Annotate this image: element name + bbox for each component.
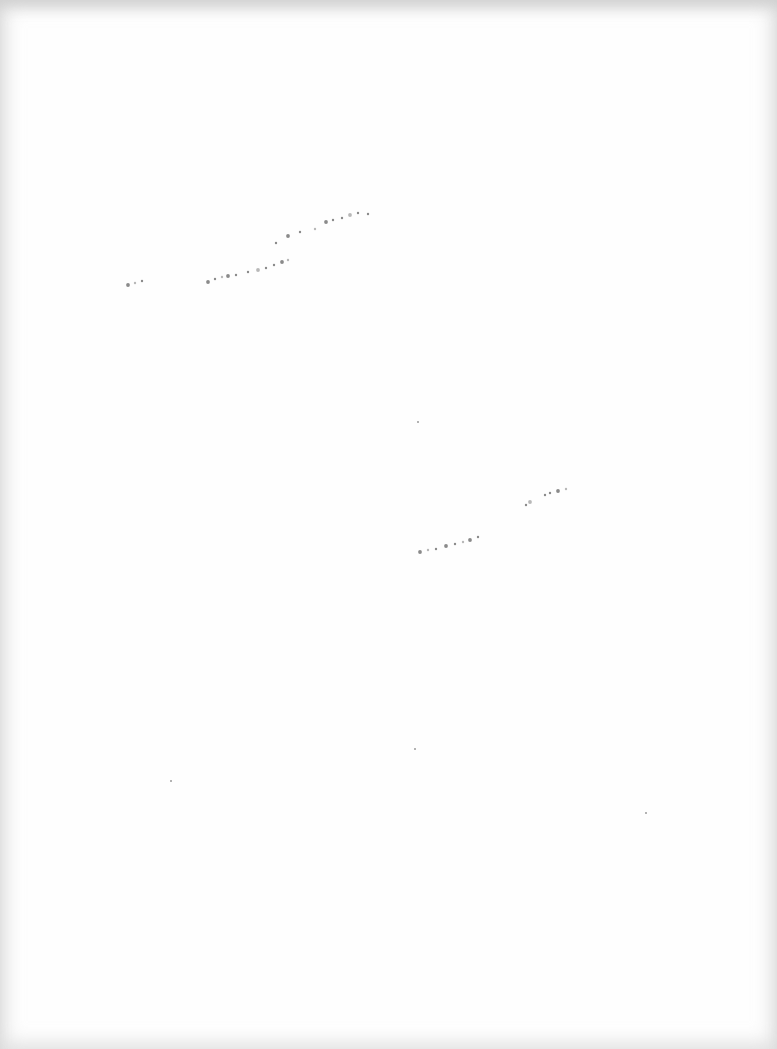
trace-dot — [280, 260, 284, 264]
trace-dot — [341, 217, 343, 219]
trace-dot — [141, 280, 143, 282]
trace-dot — [454, 543, 456, 545]
trace-dot — [435, 548, 437, 550]
trace-dot — [235, 274, 237, 276]
trace-dot — [332, 219, 334, 221]
trace-dot — [134, 282, 136, 284]
trace-dot — [348, 213, 352, 217]
dotted-trace-layer — [0, 0, 777, 1049]
trace-dot — [299, 231, 301, 233]
trace-dot — [221, 276, 223, 278]
trace-dot — [287, 259, 289, 261]
trace-dot — [214, 278, 216, 280]
speck — [417, 421, 419, 423]
trace-dot — [468, 538, 472, 542]
trace-dot — [528, 500, 532, 504]
trace-dot — [525, 504, 527, 506]
dotted-trace-upper — [126, 212, 369, 287]
trace-dot — [565, 488, 567, 490]
speck — [414, 748, 416, 750]
trace-dot — [273, 264, 275, 266]
scanned-page — [0, 0, 777, 1049]
trace-dot — [477, 536, 479, 538]
trace-dot — [544, 494, 546, 496]
trace-dot — [247, 271, 249, 273]
dotted-trace-middle — [418, 488, 567, 554]
trace-dot — [418, 550, 422, 554]
trace-dot — [462, 541, 464, 543]
trace-dot — [444, 544, 448, 548]
trace-dot — [206, 280, 210, 284]
trace-dot — [256, 268, 260, 272]
trace-dot — [549, 492, 551, 494]
trace-dot — [556, 489, 560, 493]
trace-dot — [126, 283, 130, 287]
trace-dot — [275, 242, 277, 244]
trace-dot — [265, 267, 267, 269]
trace-dot — [226, 274, 230, 278]
speck — [170, 780, 172, 782]
trace-dot — [286, 234, 290, 238]
trace-dot — [367, 213, 369, 215]
speck — [645, 812, 647, 814]
trace-dot — [357, 212, 359, 214]
trace-dot — [427, 549, 429, 551]
trace-dot — [314, 228, 316, 230]
trace-dot — [324, 220, 328, 224]
